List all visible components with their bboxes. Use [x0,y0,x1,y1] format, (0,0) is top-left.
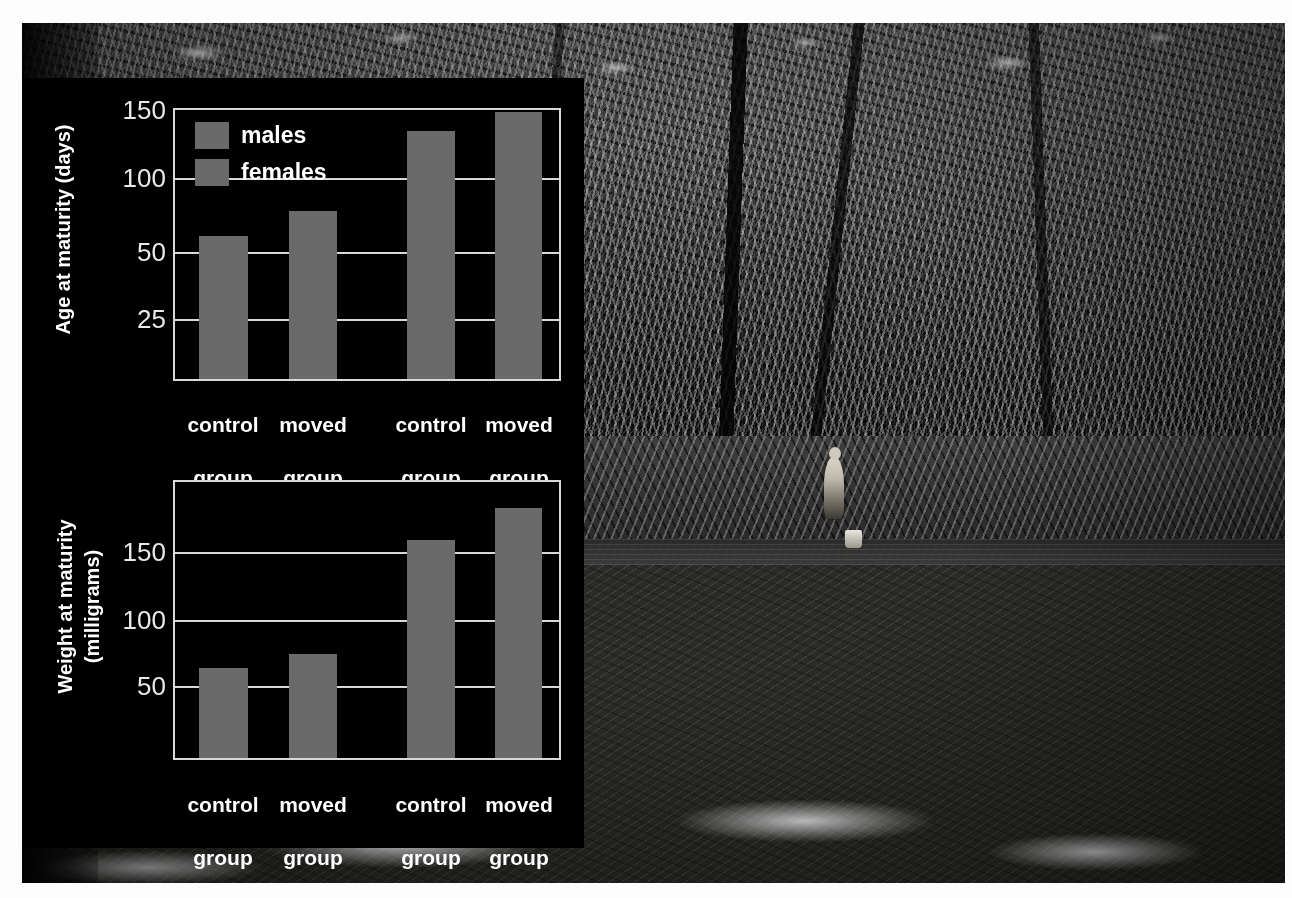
y-axis-label-weight-line2: (milligrams) [81,482,104,732]
x-label-line1: control [395,793,466,816]
legend-label-females: females [241,161,327,184]
x-label-line2: group [193,846,252,869]
y-axis-label-weight-line1: Weight at maturity [54,482,77,732]
bar-age-females-control [407,131,455,379]
bar-weight-females-control [407,540,455,758]
bar-age-females-moved [495,112,542,379]
y-tick-age-50: 50 [108,239,166,265]
y-tick-weight-100: 100 [108,607,166,633]
y-axis-label-age: Age at maturity (days) [52,105,75,355]
x-label-weight-females-control: control group [395,766,466,871]
legend-item-females: females [195,159,327,186]
legend-age-chart: males females [195,122,327,196]
y-tick-weight-150: 150 [108,539,166,565]
x-label-line1: moved [485,413,553,436]
y-tick-age-150: 150 [108,97,166,123]
x-label-weight-males-moved: moved group [279,766,347,871]
bar-weight-females-moved [495,508,542,758]
figure-root: Age at maturity (days) 150 100 50 25 [0,0,1292,898]
x-label-line2: group [283,846,342,869]
x-label-weight-males-control: control group [187,766,258,871]
x-label-line1: control [187,793,258,816]
chart-age-at-maturity: Age at maturity (days) 150 100 50 25 [22,78,584,408]
x-label-line2: group [489,846,548,869]
bar-weight-males-moved [289,654,337,758]
x-label-weight-females-moved: moved group [485,766,553,871]
legend-item-males: males [195,122,327,149]
x-label-line1: control [187,413,258,436]
bar-weight-males-control [199,668,248,758]
x-label-line2: group [401,846,460,869]
legend-swatch-females [195,159,229,186]
chart-overlay-panel: Age at maturity (days) 150 100 50 25 [22,78,584,848]
legend-swatch-males [195,122,229,149]
y-tick-age-25: 25 [108,306,166,332]
y-tick-age-100: 100 [108,165,166,191]
chart-weight-at-maturity: Weight at maturity (milligrams) 150 100 … [22,450,584,848]
legend-label-males: males [241,124,306,147]
plot-area-age: males females [173,108,561,381]
x-label-line1: moved [279,413,347,436]
bar-age-males-control [199,236,248,379]
plot-area-weight [173,480,561,760]
x-label-line1: moved [279,793,347,816]
bar-age-males-moved [289,211,337,379]
y-tick-weight-50: 50 [108,673,166,699]
x-label-line1: moved [485,793,553,816]
x-label-line1: control [395,413,466,436]
